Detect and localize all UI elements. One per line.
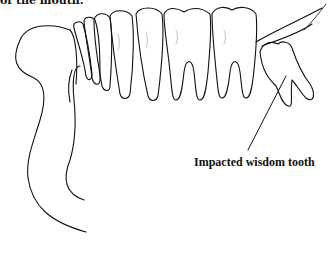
front-teeth — [74, 8, 163, 101]
impacted-wisdom-tooth-label: Impacted wisdom tooth — [194, 155, 315, 170]
molars — [164, 7, 257, 100]
jaw-illustration — [0, 0, 331, 253]
label-leader-line — [248, 76, 286, 150]
impacted-wisdom-tooth — [256, 4, 326, 106]
